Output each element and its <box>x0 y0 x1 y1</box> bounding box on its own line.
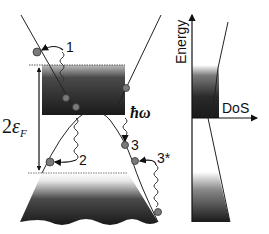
energy-axis-label: Energy <box>173 20 189 64</box>
photon-energy-label: ħω <box>130 104 150 121</box>
lower-band-filled-region <box>20 173 158 225</box>
label-1: 3 <box>131 137 139 153</box>
band-diagram: 2εF 1 2 3 3* ħω <box>0 0 269 234</box>
label-2: 2 <box>79 152 87 168</box>
dos-axis-label: DoS <box>222 100 249 116</box>
label-3-star: 3* <box>157 150 171 166</box>
label-3: 1 <box>66 39 74 55</box>
gap-label: 2εF <box>2 115 27 139</box>
